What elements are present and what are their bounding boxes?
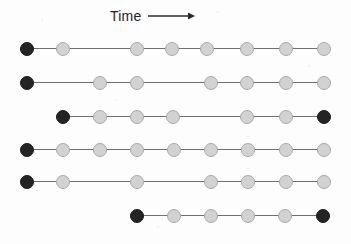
timeline-node-light	[130, 143, 144, 157]
timeline-row-1	[0, 40, 351, 58]
timeline-node-dark	[20, 42, 34, 56]
timeline-node-light	[167, 143, 181, 157]
timeline-row-2	[0, 74, 351, 92]
timeline-node-light	[204, 76, 218, 90]
arrow-right-icon	[148, 7, 196, 25]
timeline-node-light	[279, 175, 293, 189]
timeline-node-light	[56, 143, 70, 157]
timeline-node-dark	[20, 143, 34, 157]
timeline-connector-line	[137, 215, 323, 216]
time-axis-label: Time	[110, 9, 141, 23]
timeline-row-6	[0, 207, 351, 225]
timeline-row-3	[0, 108, 351, 126]
timeline-node-light	[278, 209, 292, 223]
time-axis: Time	[110, 7, 196, 25]
timeline-diagram: Time	[0, 0, 351, 244]
timeline-node-light	[317, 143, 331, 157]
timeline-node-light	[279, 42, 293, 56]
timeline-node-light	[317, 42, 331, 56]
timeline-node-dark	[130, 209, 144, 223]
timeline-node-light	[200, 42, 214, 56]
timeline-node-light	[317, 76, 331, 90]
timeline-node-light	[279, 110, 293, 124]
timeline-node-light	[56, 175, 70, 189]
timeline-node-dark	[317, 110, 331, 124]
timeline-node-light	[279, 76, 293, 90]
timeline-node-light	[240, 42, 254, 56]
timeline-row-5	[0, 173, 351, 191]
timeline-node-light	[240, 110, 254, 124]
timeline-node-dark	[20, 76, 34, 90]
timeline-node-light	[165, 42, 179, 56]
timeline-node-light	[130, 42, 144, 56]
timeline-node-light	[279, 143, 293, 157]
timeline-node-light	[240, 76, 254, 90]
timeline-row-4	[0, 141, 351, 159]
timeline-node-light	[130, 175, 144, 189]
timeline-node-light	[130, 110, 144, 124]
timeline-node-light	[204, 175, 218, 189]
timeline-node-light	[317, 175, 331, 189]
timeline-node-light	[241, 175, 255, 189]
timeline-node-light	[204, 209, 218, 223]
timeline-node-light	[56, 42, 70, 56]
timeline-node-light	[130, 76, 144, 90]
timeline-node-light	[93, 110, 107, 124]
timeline-node-light	[241, 143, 255, 157]
timeline-node-light	[241, 209, 255, 223]
timeline-node-light	[166, 110, 180, 124]
timeline-node-dark	[20, 175, 34, 189]
timeline-node-light	[93, 143, 107, 157]
timeline-node-light	[93, 76, 107, 90]
timeline-node-dark	[56, 110, 70, 124]
timeline-node-light	[167, 209, 181, 223]
timeline-node-dark	[316, 209, 330, 223]
timeline-node-light	[204, 143, 218, 157]
